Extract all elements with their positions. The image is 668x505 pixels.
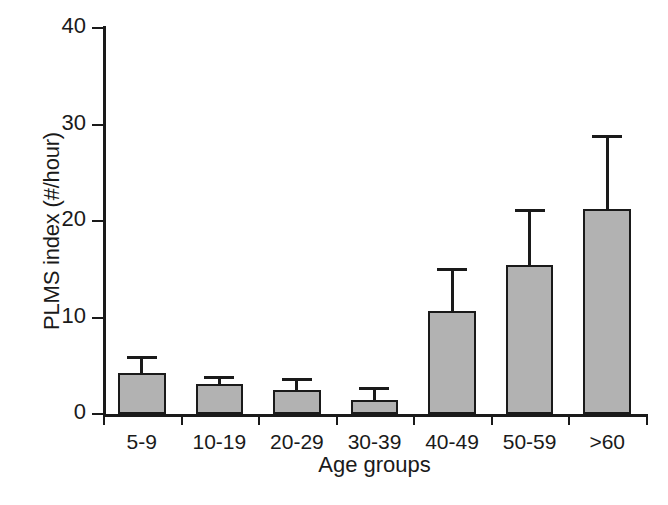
x-tick-label-40-49: 40-49 — [425, 430, 479, 454]
error-bar-cap — [359, 387, 389, 390]
x-tick — [568, 414, 570, 425]
bar-10-19 — [196, 384, 244, 414]
bar-5-9 — [118, 373, 166, 414]
x-tick-label->60: >60 — [589, 430, 625, 454]
bar-30-39 — [351, 400, 399, 414]
figure: PLMS index (#/hour) 010203040 5-910-1920… — [0, 0, 668, 505]
error-bar-stem — [528, 209, 531, 265]
error-bar-cap — [204, 376, 234, 379]
bar-group: 20-29 — [273, 28, 321, 414]
y-tick-label: 0 — [74, 400, 86, 424]
error-bar-cap — [592, 135, 622, 138]
bar-40-49 — [428, 311, 476, 414]
x-tick-label-5-9: 5-9 — [127, 430, 157, 454]
x-tick — [103, 414, 105, 425]
bar-group: 40-49 — [428, 28, 476, 414]
bar-20-29 — [273, 390, 321, 414]
y-tick-30: 30 — [92, 124, 103, 126]
bar-group: 50-59 — [506, 28, 554, 414]
x-tick-label-50-59: 50-59 — [503, 430, 557, 454]
x-tick — [491, 414, 493, 425]
error-bar-cap — [127, 356, 157, 359]
x-axis-line — [103, 414, 646, 417]
error-bar-stem — [606, 135, 609, 209]
bar->60 — [583, 209, 631, 414]
x-tick-label-10-19: 10-19 — [192, 430, 246, 454]
x-tick-label-30-39: 30-39 — [348, 430, 402, 454]
y-tick-0: 0 — [92, 413, 103, 415]
y-tick-label: 40 — [62, 14, 86, 38]
error-bar-cap — [282, 378, 312, 381]
y-tick-label: 30 — [62, 111, 86, 135]
bar-group: 5-9 — [118, 28, 166, 414]
caption-fragment — [28, 495, 638, 504]
y-tick-label: 10 — [62, 304, 86, 328]
x-tick — [336, 414, 338, 425]
bar-group: 30-39 — [351, 28, 399, 414]
plot-area: 010203040 5-910-1920-2930-3940-4950-59>6… — [103, 28, 646, 414]
bar-group: 10-19 — [196, 28, 244, 414]
x-axis-title: Age groups — [103, 452, 646, 478]
error-bar-cap — [437, 268, 467, 271]
error-bar-stem — [451, 268, 454, 310]
y-tick-10: 10 — [92, 317, 103, 319]
x-tick — [413, 414, 415, 425]
y-axis-line — [103, 26, 106, 416]
y-axis-title: PLMS index (#/hour) — [39, 31, 65, 431]
x-tick — [646, 414, 648, 425]
x-tick-label-20-29: 20-29 — [270, 430, 324, 454]
bar-group: >60 — [583, 28, 631, 414]
y-tick-20: 20 — [92, 220, 103, 222]
error-bar-cap — [515, 209, 545, 212]
y-tick-label: 20 — [62, 207, 86, 231]
x-tick — [258, 414, 260, 425]
x-tick — [181, 414, 183, 425]
bar-50-59 — [506, 265, 554, 414]
y-tick-40: 40 — [92, 27, 103, 29]
